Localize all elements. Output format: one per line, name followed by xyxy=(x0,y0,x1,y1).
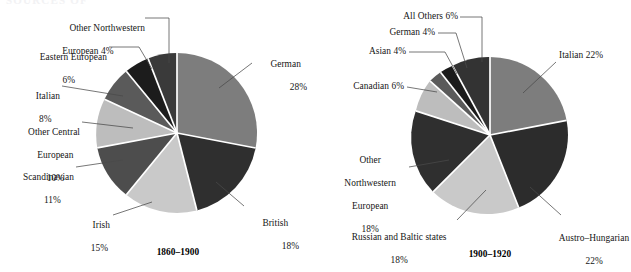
leader-line-irish xyxy=(113,202,152,215)
pie-label-irish: Irish 15% xyxy=(60,209,110,266)
pie-panel-1900-1920: All Others 6% German 4% Asian 4% Canadia… xyxy=(316,0,631,272)
pie-label-all-others: All Others 6% xyxy=(328,11,458,22)
pie-label-canadian: Canadian 6% xyxy=(320,81,404,92)
label-line-1: Austro–Hungarian xyxy=(559,233,630,243)
slice-german[interactable] xyxy=(177,53,257,148)
label-line-1: Russian and Baltic states xyxy=(352,232,447,242)
label-line-1: Other xyxy=(359,155,381,165)
label-line-2: 22% xyxy=(586,256,603,266)
leader-line-austro-hungarian xyxy=(530,187,561,215)
label-line-1: British xyxy=(262,218,288,228)
label-line-1: Eastern European xyxy=(40,52,107,62)
label-line-2: 18% xyxy=(391,255,408,265)
pie-caption-1900-1920: 1900–1920 xyxy=(432,249,548,259)
pie-label-german: German 28% xyxy=(256,48,312,105)
pie-label-british: British 18% xyxy=(248,207,304,264)
pie-label-russian-and-baltic-states: Russian and Baltic states 18% xyxy=(328,221,456,272)
label-line-1: German xyxy=(270,59,301,69)
pie-label-italian: Italian 22% xyxy=(559,50,629,61)
label-line-1: Other Northwestern xyxy=(69,23,145,33)
label-line-3: European xyxy=(352,201,388,211)
pie-label-asian: Asian 4% xyxy=(328,46,406,57)
two-pie-chart-figure: SOURCES OF xyxy=(0,0,631,272)
pie-caption-1860-1900: 1860–1900 xyxy=(120,247,236,257)
label-line-2: Northwestern xyxy=(344,178,396,188)
pie-label-german: German 4% xyxy=(328,27,435,38)
label-line-2: 15% xyxy=(74,243,124,254)
label-line-2: 11% xyxy=(16,195,88,206)
label-line-1: Italian xyxy=(36,91,60,101)
label-line-1: Scandinavian xyxy=(23,172,74,182)
label-line-2: European xyxy=(16,150,94,161)
label-line-2: 18% xyxy=(262,241,318,252)
label-line-1: Irish xyxy=(93,220,110,230)
pie-label-austro-hungarian: Austro–Hungarian 22% xyxy=(544,222,630,272)
label-line-1: Other Central xyxy=(28,127,80,137)
pie-panel-1860-1900: Other Northwestern European 4% Eastern E… xyxy=(0,0,315,272)
